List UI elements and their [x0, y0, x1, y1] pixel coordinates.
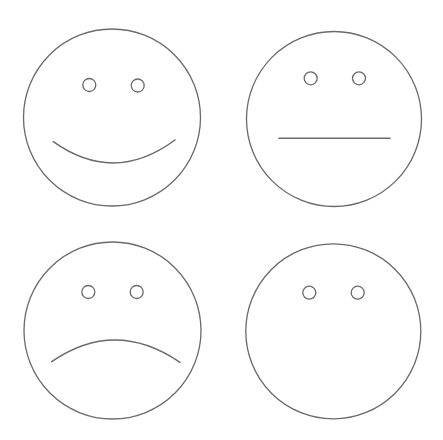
face-happy	[24, 29, 201, 206]
right-eye-icon	[353, 72, 366, 85]
right-eye-icon	[131, 79, 144, 92]
head-outline	[247, 32, 422, 207]
faces-canvas	[0, 0, 443, 440]
face-neutral	[247, 32, 422, 207]
right-eye-icon	[130, 286, 143, 299]
head-outline	[24, 242, 201, 419]
head-outline	[24, 29, 201, 206]
left-eye-icon	[82, 286, 95, 299]
faces-drawing	[0, 0, 443, 440]
face-blank	[246, 244, 421, 419]
left-eye-icon	[83, 79, 96, 92]
frown-mouth	[52, 340, 180, 362]
left-eye-icon	[304, 72, 317, 85]
left-eye-icon	[303, 286, 316, 299]
face-sad	[24, 242, 201, 419]
right-eye-icon	[351, 286, 364, 299]
smile-mouth	[53, 140, 175, 163]
head-outline	[246, 244, 421, 419]
